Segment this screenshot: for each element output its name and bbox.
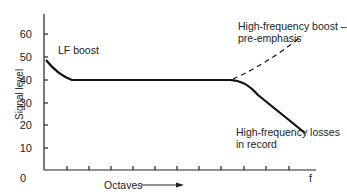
lf-boost-label: LF boost (58, 44, 99, 56)
x-axis-end-label: f (309, 172, 312, 184)
response-curve (46, 60, 305, 133)
hf-loss-label-2: in record (236, 138, 277, 150)
y-tick-20: 20 (12, 119, 32, 131)
y-axis-label: Signal level (14, 69, 25, 120)
hf-boost-label-1: High-frequency boost – (238, 20, 347, 32)
x-axis-label: Octaves (104, 179, 143, 191)
hf-loss-label-1: High-frequency losses (236, 126, 340, 138)
y-tick-60: 60 (12, 28, 32, 40)
y-tick-50: 50 (12, 51, 32, 63)
hf-boost-label-2: pre-emphasis (238, 32, 302, 44)
y-tick-10: 10 (12, 142, 32, 154)
y-tick-0: 0 (6, 172, 26, 184)
